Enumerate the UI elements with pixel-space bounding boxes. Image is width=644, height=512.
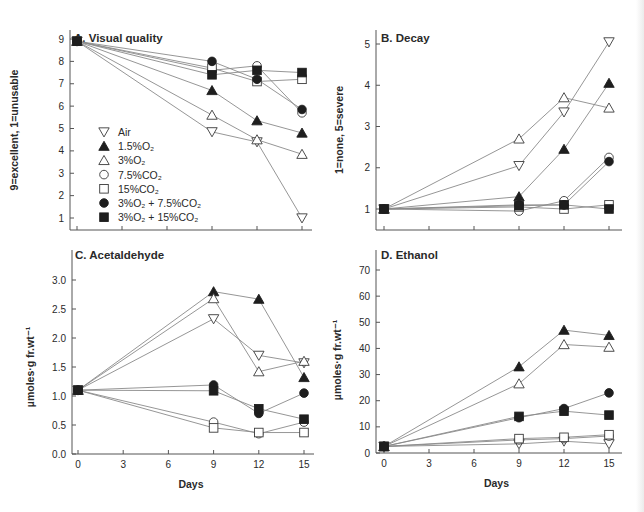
page-edge-shadow	[636, 0, 644, 512]
y-tick-label: 0	[364, 448, 370, 459]
series-line	[77, 41, 302, 81]
square-filled-marker-icon	[209, 386, 218, 395]
circle-filled-marker-icon	[298, 105, 307, 114]
y-tick-label: 3.0	[52, 275, 66, 286]
square-filled-marker-icon	[300, 415, 309, 424]
y-tick-label: 2	[58, 190, 64, 201]
y-tick-label: 3	[58, 168, 64, 179]
square-filled-marker-icon	[515, 412, 524, 421]
legend-item-co2_75: 7.5%CO₂	[100, 169, 162, 181]
y-tick-label: 5	[58, 123, 64, 134]
series-markers	[72, 36, 307, 137]
series-markers	[73, 294, 309, 395]
panel-b: 12345B. Decay1=none, 5=severe	[333, 30, 622, 230]
square-filled-marker-icon	[380, 442, 389, 451]
square-filled-icon	[100, 213, 109, 222]
triangle-up-filled-marker-icon	[297, 128, 307, 137]
triangle-up-open-marker-icon	[297, 149, 307, 158]
square-open-marker-icon	[255, 428, 264, 437]
square-filled-marker-icon	[605, 205, 614, 214]
x-tick-label: 3	[426, 458, 432, 469]
x-tick-label: 12	[253, 459, 265, 470]
series-line	[384, 441, 609, 446]
square-filled-marker-icon	[515, 201, 524, 210]
y-tick-label: 50	[359, 317, 371, 328]
series-line	[384, 98, 609, 209]
legend-item-o2_3: 3%O₂	[99, 154, 146, 166]
series-line	[77, 41, 302, 113]
triangle-up-open-marker-icon	[559, 93, 569, 102]
legend-label: 7.5%CO₂	[118, 169, 162, 181]
square-open-marker-icon	[300, 428, 309, 437]
y-tick-label: 1	[58, 213, 64, 224]
series-markers	[74, 386, 309, 437]
circle-filled-marker-icon	[605, 389, 614, 398]
triangle-down-open-marker-icon	[514, 162, 524, 171]
series-markers	[74, 386, 309, 424]
series-line	[77, 41, 302, 218]
series-line	[384, 162, 609, 209]
triangle-up-open-marker-icon	[207, 110, 217, 119]
y-tick-label: 5	[364, 39, 370, 50]
circle-filled-icon	[100, 199, 109, 208]
y-tick-label: 7	[58, 78, 64, 89]
y-tick-label: 0.5	[52, 420, 66, 431]
series-markers	[380, 157, 614, 213]
series-line	[384, 157, 609, 211]
triangle-down-open-marker-icon	[604, 440, 614, 449]
circle-filled-marker-icon	[253, 75, 262, 84]
x-tick-label: 0	[75, 459, 81, 470]
y-tick-label: 40	[359, 343, 371, 354]
x-axis-label: Days	[484, 477, 509, 489]
y-tick-label: 9	[58, 34, 64, 45]
x-tick-label: 15	[603, 458, 615, 469]
y-tick-label: 10	[359, 421, 371, 432]
y-tick-label: 3	[364, 121, 370, 132]
triangle-up-open-marker-icon	[559, 340, 569, 349]
legend-item-o2_15: 1.5%O₂	[99, 140, 154, 152]
legend-label: 3%O₂	[118, 154, 145, 166]
panel-title: A. Visual quality	[74, 32, 163, 44]
y-tick-label: 30	[359, 369, 371, 380]
square-filled-marker-icon	[298, 68, 307, 77]
series-markers	[72, 36, 307, 158]
y-tick-label: 70	[359, 265, 371, 276]
x-tick-label: 9	[516, 458, 522, 469]
square-open-marker-icon	[560, 433, 569, 442]
legend-item-o2_3_co2_15: 3%O₂ + 15%CO₂	[100, 211, 199, 223]
square-filled-marker-icon	[208, 71, 217, 80]
square-open-marker-icon	[209, 424, 218, 433]
triangle-down-open-marker-icon	[297, 214, 307, 223]
x-axis-label: Days	[178, 478, 203, 490]
panel-title: C. Acetaldehyde	[75, 249, 164, 261]
y-tick-label: 0.0	[52, 449, 66, 460]
legend-label: 3%O₂ + 7.5%CO₂	[118, 197, 201, 209]
series-line	[78, 292, 304, 391]
x-tick-label: 0	[381, 458, 387, 469]
triangle-up-filled-marker-icon	[559, 325, 569, 334]
triangle-up-filled-icon	[99, 141, 109, 150]
x-tick-label: 3	[120, 459, 126, 470]
series-markers	[379, 93, 614, 213]
legend-item-air: Air	[99, 126, 132, 138]
y-tick-label: 1	[364, 204, 370, 215]
square-filled-marker-icon	[380, 205, 389, 214]
x-tick-label: 6	[166, 459, 172, 470]
triangle-up-filled-marker-icon	[514, 362, 524, 371]
series-line	[384, 393, 609, 447]
square-filled-marker-icon	[73, 37, 82, 46]
y-tick-label: 6	[58, 101, 64, 112]
triangle-down-open-icon	[99, 128, 109, 137]
square-filled-marker-icon	[560, 201, 569, 210]
square-filled-marker-icon	[605, 411, 614, 420]
y-axis-label: µmoles·g fr.wt⁻¹	[24, 326, 36, 407]
series-markers	[379, 38, 614, 214]
triangle-up-filled-marker-icon	[207, 86, 217, 95]
y-tick-label: 4	[364, 80, 370, 91]
panel-title: D. Ethanol	[381, 249, 438, 261]
square-open-marker-icon	[515, 434, 524, 443]
y-axis-label: 9=excellent, 1=unusable	[8, 69, 20, 190]
panel-title: B. Decay	[381, 32, 430, 44]
square-filled-marker-icon	[74, 386, 83, 395]
series-line	[77, 41, 302, 109]
